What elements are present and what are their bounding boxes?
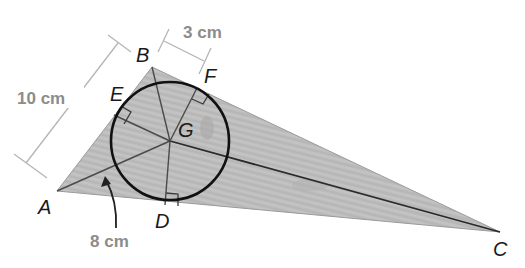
triangle-abc <box>57 67 500 232</box>
label-d: D <box>155 210 169 232</box>
label-a: A <box>37 196 51 218</box>
wood-knot <box>292 179 328 191</box>
label-g: G <box>178 119 194 141</box>
label-c: C <box>493 238 508 260</box>
dimension-label-ag: 8 cm <box>90 232 129 251</box>
label-b: B <box>136 44 149 66</box>
triangle-incircle-diagram: 10 cm 3 cm 8 cm A B C D E F G <box>0 0 525 268</box>
label-e: E <box>110 83 124 105</box>
dimension-label-bf: 3 cm <box>183 23 222 42</box>
dimension-label-ab: 10 cm <box>17 89 65 108</box>
label-f: F <box>204 65 218 87</box>
wood-knot <box>200 116 214 140</box>
